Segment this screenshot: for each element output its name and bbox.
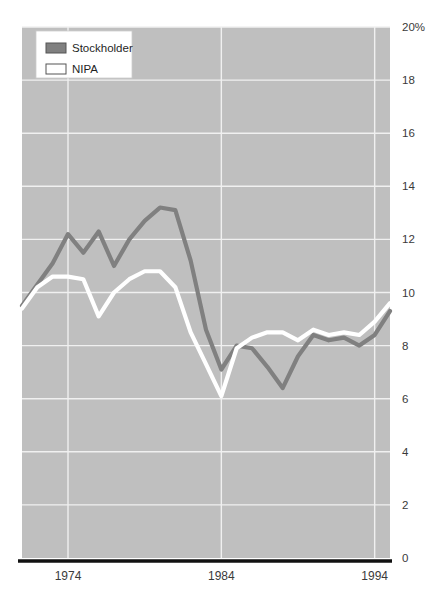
y-tick-label: 12	[402, 233, 415, 245]
line-chart: 02468101214161820% 197419841994 Stockhol…	[0, 0, 437, 594]
y-tick-label: 8	[402, 340, 408, 352]
legend-label-nipa: NIPA	[72, 63, 98, 75]
y-tick-label: 14	[402, 180, 415, 192]
x-tick-label: 1974	[55, 569, 82, 583]
legend-swatch-nipa	[46, 64, 66, 74]
chart-container: 02468101214161820% 197419841994 Stockhol…	[0, 0, 437, 594]
y-tick-label: 6	[402, 393, 408, 405]
x-tick-label: 1994	[361, 569, 388, 583]
y-tick-label: 18	[402, 74, 415, 86]
x-tick-label: 1984	[208, 569, 235, 583]
legend-label-stockholder: Stockholder	[72, 42, 133, 54]
y-tick-label: 20%	[402, 21, 425, 33]
legend-swatch-stockholder	[46, 43, 66, 53]
chart-legend: StockholderNIPA	[36, 31, 133, 78]
y-tick-label: 16	[402, 127, 415, 139]
y-tick-label: 10	[402, 287, 415, 299]
y-tick-label: 4	[402, 446, 409, 458]
y-tick-label: 2	[402, 499, 408, 511]
y-tick-label: 0	[402, 552, 408, 564]
